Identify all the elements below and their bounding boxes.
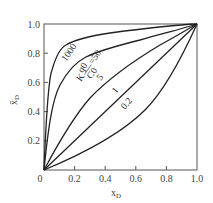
x-ticks <box>75 166 167 170</box>
x-tick-0.8: 0.8 <box>160 173 173 184</box>
x-tick-0.6: 0.6 <box>130 173 143 184</box>
label-1: 1 <box>110 85 121 95</box>
label-0.2: 0.2 <box>119 96 134 112</box>
x-tick-1.0: 1.0 <box>191 173 204 184</box>
x-tick-0.2: 0.2 <box>68 173 81 184</box>
x-axis-label: xD <box>111 187 121 200</box>
y-tick-0.4: 0.4 <box>28 106 41 117</box>
y-tick-0.6: 0.6 <box>28 77 41 88</box>
x-tick-0.4: 0.4 <box>99 173 112 184</box>
label-5: 5 <box>94 72 105 82</box>
x-tick-0: 0 <box>38 173 43 184</box>
label-1000: 1000 <box>59 42 78 64</box>
y-tick-0.8: 0.8 <box>28 48 41 59</box>
y-axis-label: x̄D <box>8 95 21 105</box>
y-tick-0.2: 0.2 <box>28 135 41 146</box>
y-tick-1.0: 1.0 <box>28 19 41 30</box>
chart-canvas: 1.0 0.8 0.6 0.4 0.2 0 0.2 0.4 0.6 0.8 1.… <box>0 0 213 203</box>
